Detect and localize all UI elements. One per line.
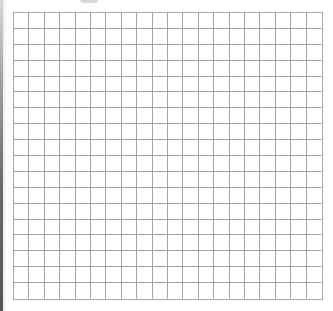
grid-cell xyxy=(76,13,91,29)
grid-cell xyxy=(199,108,214,124)
grid-cell xyxy=(45,235,60,251)
grid-cell xyxy=(91,124,106,140)
grid-cell xyxy=(76,124,91,140)
grid-cell xyxy=(29,172,44,188)
grid-cell xyxy=(153,204,168,220)
grid-cell xyxy=(260,267,275,283)
grid-cell xyxy=(60,235,75,251)
grid-cell xyxy=(45,267,60,283)
grid-cell xyxy=(106,108,121,124)
grid-cell xyxy=(14,61,29,77)
grid-cell xyxy=(183,92,198,108)
grid-cell xyxy=(168,108,183,124)
grid-cell xyxy=(153,77,168,93)
grid-cell xyxy=(230,283,245,299)
grid-cell xyxy=(230,172,245,188)
grid-cell xyxy=(45,140,60,156)
grid-cell xyxy=(14,220,29,236)
grid-cell xyxy=(76,204,91,220)
grid-cell xyxy=(122,92,137,108)
grid-cell xyxy=(291,77,306,93)
grid-cell xyxy=(106,283,121,299)
grid-cell xyxy=(214,92,229,108)
grid-cell xyxy=(76,188,91,204)
grid-cell xyxy=(122,29,137,45)
grid-cell xyxy=(153,29,168,45)
grid-cell xyxy=(122,283,137,299)
grid-cell xyxy=(260,29,275,45)
grid-cell xyxy=(122,204,137,220)
grid-cell xyxy=(230,45,245,61)
grid-cell xyxy=(245,204,260,220)
grid-cell xyxy=(137,124,152,140)
graph-paper-grid xyxy=(13,12,323,300)
grid-cell xyxy=(307,108,322,124)
grid-cell xyxy=(60,108,75,124)
grid-cell xyxy=(291,172,306,188)
grid-cell xyxy=(60,220,75,236)
grid-cell xyxy=(122,61,137,77)
grid-cell xyxy=(14,29,29,45)
grid-cell xyxy=(291,92,306,108)
grid-cell xyxy=(14,108,29,124)
grid-cell xyxy=(153,124,168,140)
grid-cell xyxy=(60,251,75,267)
grid-cell xyxy=(153,13,168,29)
grid-cell xyxy=(199,29,214,45)
grid-cell xyxy=(122,45,137,61)
grid-cell xyxy=(137,140,152,156)
grid-cell xyxy=(137,172,152,188)
grid-cell xyxy=(260,251,275,267)
grid-cell xyxy=(122,156,137,172)
grid-cell xyxy=(29,220,44,236)
grid-cell xyxy=(91,29,106,45)
grid-cell xyxy=(307,92,322,108)
grid-cell xyxy=(76,61,91,77)
grid-cell xyxy=(230,108,245,124)
grid-cell xyxy=(168,92,183,108)
grid-cell xyxy=(60,77,75,93)
grid-cell xyxy=(106,92,121,108)
grid-cell xyxy=(168,204,183,220)
grid-cell xyxy=(91,251,106,267)
grid-cell xyxy=(45,204,60,220)
grid-cell xyxy=(168,267,183,283)
grid-cell xyxy=(29,45,44,61)
grid-cell xyxy=(45,108,60,124)
grid-cell xyxy=(230,267,245,283)
grid-cell xyxy=(245,45,260,61)
grid-cell xyxy=(91,13,106,29)
grid-cell xyxy=(60,204,75,220)
grid-cell xyxy=(230,235,245,251)
grid-cell xyxy=(276,172,291,188)
grid-cell xyxy=(106,251,121,267)
grid-cell xyxy=(45,77,60,93)
grid-cell xyxy=(168,29,183,45)
grid-cell xyxy=(76,251,91,267)
grid-cell xyxy=(14,172,29,188)
grid-cell xyxy=(291,267,306,283)
grid-cell xyxy=(168,172,183,188)
grid-cell xyxy=(137,220,152,236)
grid-cell xyxy=(245,283,260,299)
grid-cell xyxy=(91,140,106,156)
grid-cell xyxy=(76,92,91,108)
grid-cell xyxy=(260,13,275,29)
grid-cell xyxy=(307,220,322,236)
grid-cell xyxy=(29,92,44,108)
grid-cell xyxy=(214,188,229,204)
grid-cell xyxy=(45,45,60,61)
grid-cell xyxy=(230,92,245,108)
grid-cell xyxy=(45,124,60,140)
grid-cell xyxy=(214,13,229,29)
grid-cell xyxy=(29,283,44,299)
grid-cell xyxy=(291,188,306,204)
grid-cell xyxy=(14,283,29,299)
grid-cell xyxy=(245,124,260,140)
grid-cell xyxy=(183,13,198,29)
grid-cell xyxy=(276,220,291,236)
grid-cell xyxy=(14,267,29,283)
grid-cell xyxy=(168,251,183,267)
grid-cell xyxy=(260,172,275,188)
grid-cell xyxy=(230,77,245,93)
